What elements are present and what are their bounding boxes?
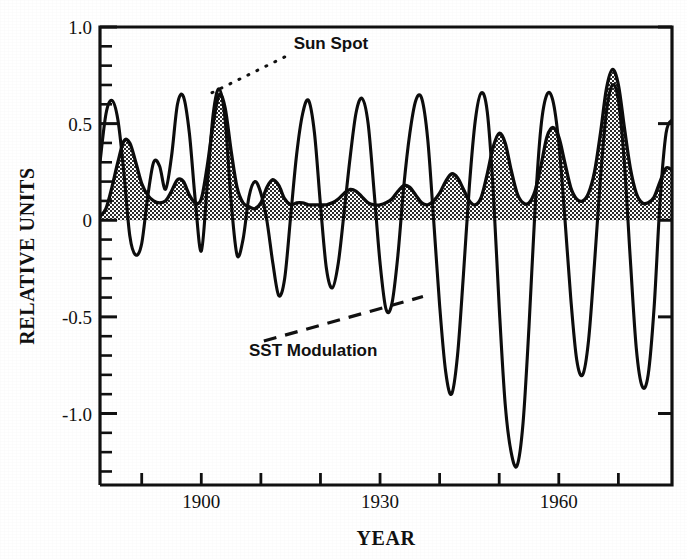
sst-modulation-annotation-leader-line xyxy=(264,297,423,341)
x-tick-label: 1900 xyxy=(182,491,220,512)
sst-modulation-annotation-text: SST Modulation xyxy=(249,341,377,360)
axis-ticks xyxy=(100,27,672,485)
y-axis-title: RELATIVE UNITS xyxy=(16,167,38,345)
y-tick-label: -0.5 xyxy=(62,307,92,328)
chart-canvas: 1.00.50-0.5-1.0 190019301960 Sun SpotSST… xyxy=(0,0,687,559)
y-axis-tick-labels: 1.00.50-0.5-1.0 xyxy=(62,17,92,425)
plot-frame xyxy=(100,27,672,485)
sun-spot-annotation-text: Sun Spot xyxy=(294,34,369,53)
y-tick-label: 1.0 xyxy=(68,17,92,38)
x-axis-tick-labels: 190019301960 xyxy=(182,491,578,512)
sst-modulation-curve xyxy=(100,85,672,468)
data-curves xyxy=(100,69,672,467)
y-tick-label: -1.0 xyxy=(62,404,92,425)
y-tick-label: 0 xyxy=(83,210,93,231)
sunspot-sst-figure: 1.00.50-0.5-1.0 190019301960 Sun SpotSST… xyxy=(0,0,687,559)
axes-frame xyxy=(100,27,672,485)
x-tick-label: 1960 xyxy=(540,491,578,512)
y-tick-label: 0.5 xyxy=(68,114,92,135)
x-tick-label: 1930 xyxy=(361,491,399,512)
x-axis-title: YEAR xyxy=(356,527,415,549)
